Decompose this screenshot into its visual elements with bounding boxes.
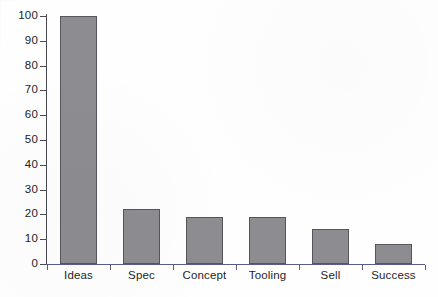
x-axis-tick [47,265,48,270]
bar-tooling [249,217,286,264]
x-axis-label-tooling: Tooling [249,270,287,282]
x-axis-label-concept: Concept [183,270,227,282]
bar-ideas [60,16,97,264]
x-axis-label-success: Success [371,270,416,282]
y-axis-tick-label: 0 [4,258,38,270]
y-axis-tick-label: 20 [4,208,38,220]
y-axis-tick-label: 10 [4,233,38,245]
bars-container [47,16,425,264]
y-axis-tick-label-wrap: 20 [0,214,38,215]
bar-success [375,244,412,264]
x-axis-label-sell: Sell [321,270,341,282]
x-axis-tick [425,265,426,270]
bar-concept [186,217,223,264]
x-axis-tick [173,265,174,270]
y-axis-tick-label-wrap: 60 [0,115,38,116]
y-axis-tick-label: 70 [4,84,38,96]
bar-spec [123,209,160,264]
x-axis-tick [362,265,363,270]
y-axis-tick-label: 30 [4,184,38,196]
y-axis-tick-label-wrap: 30 [0,190,38,191]
x-axis-label-spec: Spec [128,270,155,282]
y-axis-tick-label-wrap: 100 [0,16,38,17]
y-axis-tick-label-wrap: 0 [0,264,38,265]
y-axis-tick-label-wrap: 50 [0,140,38,141]
y-axis-tick-label: 40 [4,159,38,171]
y-axis-tick-label: 80 [4,60,38,72]
y-axis-tick-label-wrap: 80 [0,66,38,67]
y-axis-tick-label-wrap: 10 [0,239,38,240]
y-axis-tick-label: 100 [4,10,38,22]
x-axis-label-ideas: Ideas [64,270,93,282]
y-axis-tick-label: 60 [4,109,38,121]
bar-chart-figure: 0102030405060708090100 IdeasSpecConceptT… [0,0,438,297]
x-axis-tick [236,265,237,270]
x-axis-tick [299,265,300,270]
bar-sell [312,229,349,264]
y-axis-tick-label: 50 [4,134,38,146]
y-axis-tick-label: 90 [4,35,38,47]
y-axis-tick-label-wrap: 40 [0,165,38,166]
y-axis-tick-label-wrap: 70 [0,90,38,91]
y-axis-tick-label-wrap: 90 [0,41,38,42]
x-axis-tick [110,265,111,270]
